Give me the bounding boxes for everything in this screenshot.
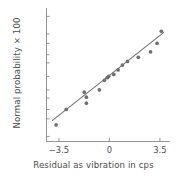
data-point: [85, 95, 89, 99]
x-tick-label: 0: [107, 146, 112, 154]
data-point: [126, 60, 130, 64]
data-point: [155, 42, 159, 46]
data-point: [121, 63, 125, 67]
normal-probability-plot-figure: Normal probability × 100 151020305070809…: [0, 0, 187, 178]
data-point: [97, 88, 101, 92]
data-point: [82, 90, 86, 94]
chart-canvas: [46, 8, 170, 142]
data-point: [85, 101, 89, 105]
data-point: [103, 78, 107, 82]
data-points: [54, 29, 163, 126]
data-point: [136, 56, 140, 60]
data-point: [112, 73, 116, 77]
data-point: [159, 29, 163, 33]
data-point: [107, 75, 111, 79]
x-tick-label: 3.5: [153, 146, 166, 154]
data-point: [116, 68, 120, 72]
plot-area: [46, 8, 170, 142]
data-point: [54, 123, 58, 127]
data-point: [149, 50, 153, 54]
data-point: [64, 108, 68, 112]
x-tick-label: −3.5: [49, 146, 69, 154]
x-axis-title: Residual as vibration in cps: [0, 160, 187, 170]
